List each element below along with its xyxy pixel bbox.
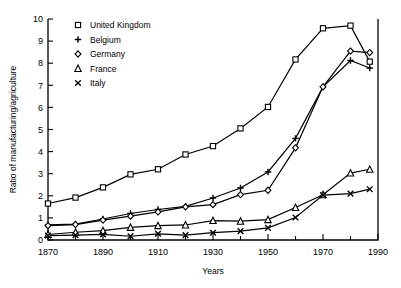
legend-marker-belgium (75, 36, 81, 42)
y-tick-label: 4 (38, 147, 43, 157)
data-point-united-kingdom (128, 172, 133, 177)
y-tick-label: 3 (38, 169, 43, 179)
x-tick-label: 1890 (93, 247, 113, 257)
series-line-france (48, 169, 370, 234)
data-point-united-kingdom (348, 23, 353, 28)
ratio-manufacturing-agriculture-line-chart: 0123456789101870189019101930195019701990… (0, 0, 401, 288)
data-point-united-kingdom (320, 26, 325, 31)
x-axis-title: Years (202, 266, 223, 276)
data-point-france (367, 166, 373, 172)
data-point-germany (100, 217, 106, 223)
data-point-united-kingdom (45, 201, 50, 206)
data-point-germany (45, 223, 51, 229)
x-tick-label: 1930 (203, 247, 223, 257)
data-point-united-kingdom (73, 195, 78, 200)
y-tick-label: 5 (38, 125, 43, 135)
y-tick-label: 8 (38, 58, 43, 68)
data-point-belgium (237, 185, 243, 191)
data-point-united-kingdom (367, 59, 372, 64)
legend-label-united-kingdom: United Kingdom (90, 20, 150, 30)
legend-marker-germany (75, 51, 81, 57)
x-tick-label: 1970 (313, 247, 333, 257)
chart-container: 0123456789101870189019101930195019701990… (0, 0, 401, 288)
data-point-germany (367, 49, 373, 55)
data-point-belgium (210, 195, 216, 201)
data-point-germany (73, 221, 79, 227)
x-tick-label: 1990 (368, 247, 388, 257)
data-point-italy (293, 215, 299, 221)
data-point-united-kingdom (293, 57, 298, 62)
y-tick-label: 1 (38, 213, 43, 223)
data-point-united-kingdom (155, 167, 160, 172)
legend-label-belgium: Belgium (90, 35, 121, 45)
y-tick-label: 6 (38, 103, 43, 113)
y-tick-label: 9 (38, 36, 43, 46)
legend-marker-italy (75, 80, 81, 86)
legend-label-italy: Italy (90, 78, 106, 88)
y-tick-label: 2 (38, 191, 43, 201)
legend-marker-united-kingdom (75, 22, 80, 27)
y-axis-title: Ratio of manufacturing/agriculture (8, 65, 18, 193)
y-tick-label: 0 (38, 235, 43, 245)
data-point-germany (210, 202, 216, 208)
x-tick-label: 1870 (38, 247, 58, 257)
x-tick-label: 1910 (148, 247, 168, 257)
data-point-united-kingdom (238, 126, 243, 131)
data-point-united-kingdom (210, 143, 215, 148)
data-point-belgium (367, 65, 373, 71)
y-tick-label: 10 (33, 14, 43, 24)
y-tick-label: 7 (38, 81, 43, 91)
legend-label-germany: Germany (90, 49, 126, 59)
data-point-united-kingdom (100, 185, 105, 190)
data-point-united-kingdom (265, 104, 270, 109)
data-point-germany (238, 192, 244, 198)
data-point-united-kingdom (183, 152, 188, 157)
x-tick-label: 1950 (258, 247, 278, 257)
legend-marker-france (75, 65, 81, 71)
data-point-france (292, 204, 298, 210)
data-point-germany (183, 204, 189, 210)
legend-label-france: France (90, 64, 117, 74)
